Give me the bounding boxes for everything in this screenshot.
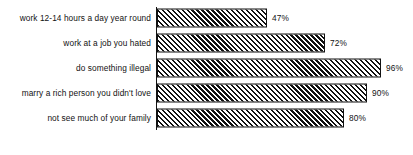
category-label: work at a job you hated [63, 38, 151, 48]
bar-value-label: 47% [272, 13, 289, 23]
bar [157, 83, 367, 102]
bar-row: do something illegal 96% [0, 55, 413, 80]
category-label: do something illegal [76, 63, 151, 73]
category-label: work 12-14 hours a day year round [20, 13, 151, 23]
bar-value-label: 96% [386, 63, 403, 73]
bar-group: 80% [157, 108, 366, 127]
bar-chart: work 12-14 hours a day year round 47% wo… [0, 0, 413, 155]
category-label: marry a rich person you didn't love [22, 88, 151, 98]
bar-row: work 12-14 hours a day year round 47% [0, 5, 413, 30]
bar-group: 90% [157, 83, 389, 102]
bar-row: not see much of your family 80% [0, 105, 413, 130]
bar [157, 8, 267, 27]
plot-area: work 12-14 hours a day year round 47% wo… [0, 0, 413, 155]
bar [157, 58, 381, 77]
bar-value-label: 72% [330, 38, 347, 48]
bar [157, 33, 325, 52]
bar-group: 72% [157, 33, 347, 52]
bar-row: marry a rich person you didn't love 90% [0, 80, 413, 105]
bar [157, 108, 344, 127]
bar-row: work at a job you hated 72% [0, 30, 413, 55]
category-label: not see much of your family [47, 113, 151, 123]
bar-value-label: 90% [372, 88, 389, 98]
bar-group: 47% [157, 8, 289, 27]
bar-value-label: 80% [349, 113, 366, 123]
bar-group: 96% [157, 58, 403, 77]
